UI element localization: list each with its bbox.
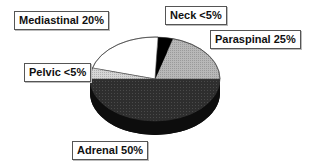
label-mediastinal: Mediastinal 20% [14,11,109,30]
label-neck: Neck <5% [165,6,227,25]
label-paraspinal: Paraspinal 25% [210,30,301,49]
label-pelvic: Pelvic <5% [24,63,91,82]
label-adrenal: Adrenal 50% [72,141,148,160]
